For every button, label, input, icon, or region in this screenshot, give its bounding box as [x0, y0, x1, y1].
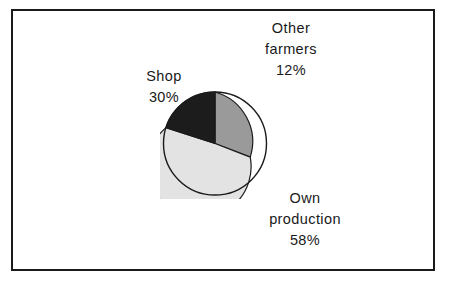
pie-chart: Other farmers 12% Shop 30% Own productio… — [0, 0, 449, 282]
pie-label-shop-percent: 30% — [108, 87, 220, 108]
pie-label-other-farmers-line2: farmers — [226, 39, 356, 60]
pie-label-own-production-line2: production — [234, 209, 376, 230]
pie-label-own-production-percent: 58% — [234, 230, 376, 251]
pie-label-other-farmers: Other farmers 12% — [226, 18, 356, 81]
pie-slices — [160, 92, 253, 199]
pie-label-own-production-line1: Own — [234, 188, 376, 209]
pie-label-other-farmers-percent: 12% — [226, 60, 356, 81]
pie-label-shop: Shop 30% — [108, 66, 220, 108]
pie-label-own-production: Own production 58% — [234, 188, 376, 251]
pie-label-other-farmers-line1: Other — [226, 18, 356, 39]
pie-label-shop-line1: Shop — [108, 66, 220, 87]
